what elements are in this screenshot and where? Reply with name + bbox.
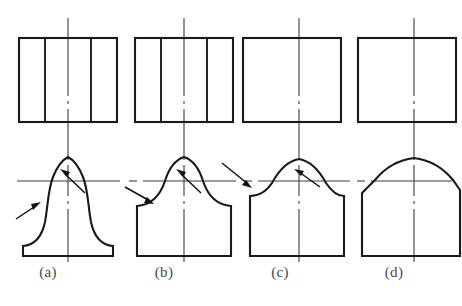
front-view-profile-d [362, 158, 460, 256]
leader-outer-shoulder-b [125, 187, 154, 204]
caption-variant-d: (d) [374, 264, 414, 281]
caption-variant-a: (a) [28, 264, 68, 281]
caption-variant-b: (b) [144, 264, 184, 281]
leader-outer-shoulder-c [222, 163, 252, 188]
variant-c-group [222, 18, 344, 262]
front-view-profile-c [250, 159, 344, 256]
top-view-rectangle-d [358, 38, 456, 122]
caption-variant-c: (c) [260, 264, 300, 281]
variant-b-group [125, 18, 233, 262]
drawing-canvas [0, 0, 462, 306]
top-view-rectangle-c [243, 38, 341, 122]
leader-inner-tangent-c [294, 169, 320, 187]
variant-a-group [16, 18, 117, 262]
engineering-drawing-figure: (a) (b) (c) (d) [0, 0, 462, 306]
leader-outer-flare-a [16, 202, 41, 219]
variant-d-group [358, 18, 460, 262]
